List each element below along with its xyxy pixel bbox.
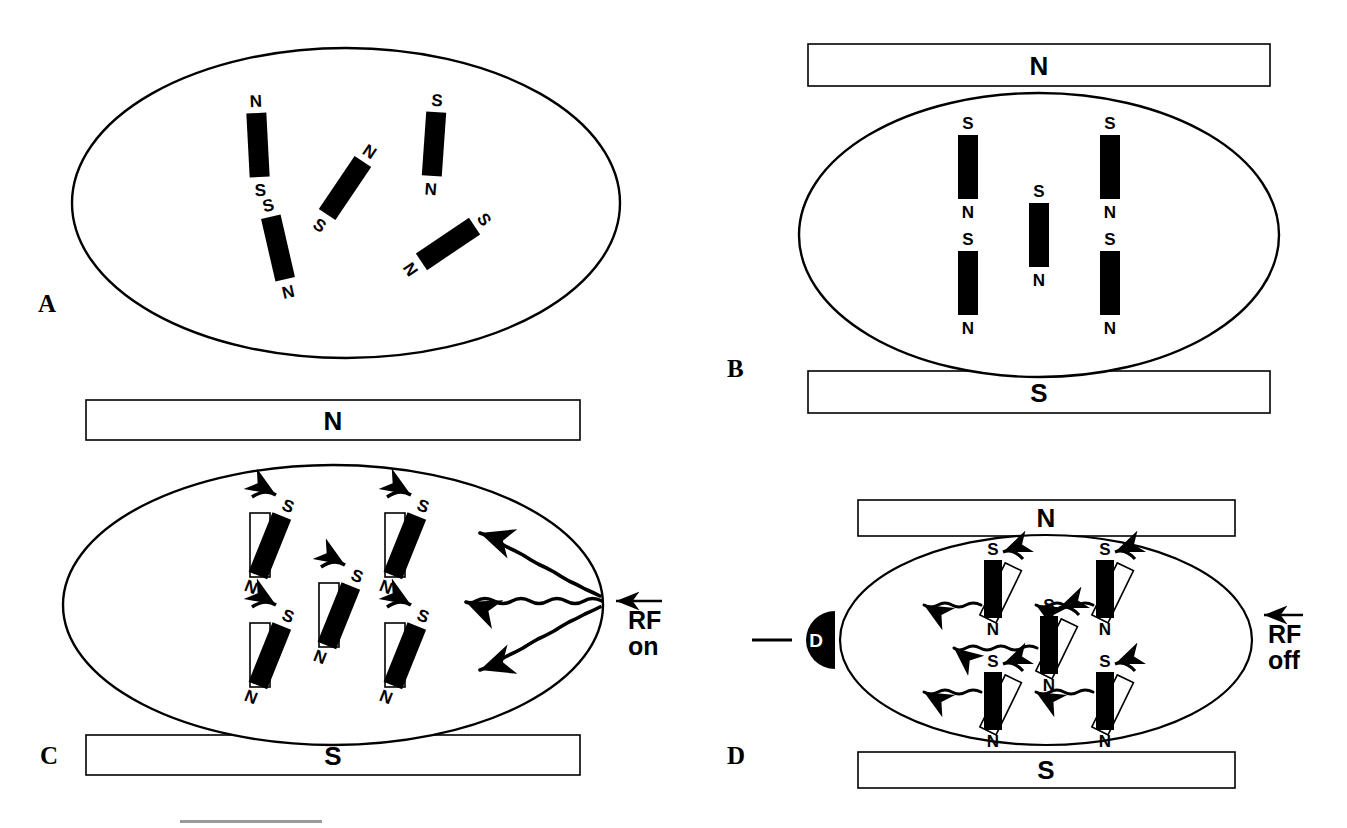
scale-bar: [180, 820, 322, 823]
magnet-body: [958, 251, 978, 315]
panel-d-group: N S D S N: [752, 500, 1303, 788]
rf-on-label: RF on: [628, 608, 661, 659]
figure-canvas: N S N S S N S N: [0, 0, 1347, 828]
detector-label: D: [809, 630, 823, 651]
panel-b-plate-north: N: [808, 44, 1270, 86]
magnet-body: [246, 113, 269, 178]
panel-label-b: B: [727, 356, 744, 381]
magnet-pole-top: S: [962, 230, 973, 249]
panel-b-group: N S S N S N S N: [799, 44, 1279, 413]
magnet-pole-top: S: [1104, 114, 1115, 133]
magnet-pole-top: N: [249, 92, 262, 112]
magnet-pole-top: S: [1099, 540, 1110, 559]
panel-d-detector[interactable]: D: [752, 611, 835, 669]
magnet-pole-top: S: [987, 652, 998, 671]
plate-label: N: [1030, 51, 1049, 81]
diagram-svg: N S N S S N S N: [0, 0, 1347, 828]
magnet-pole-bottom: N: [1104, 203, 1116, 222]
magnet-pole-bottom: N: [1099, 620, 1111, 639]
magnet-pole-bottom: N: [1104, 319, 1116, 338]
magnet-body: [1096, 672, 1114, 730]
panel-a-group: N S N S S N S N: [72, 48, 620, 358]
magnet-pole-top: S: [1104, 230, 1115, 249]
magnet-body: [1100, 135, 1120, 199]
magnet-pole-bottom: N: [424, 179, 438, 199]
magnet-body: [1096, 560, 1114, 618]
magnet-pole-top: S: [1033, 182, 1044, 201]
magnet-pole-bottom: N: [987, 732, 999, 751]
plate-label: N: [1037, 503, 1056, 533]
panel-label-d: D: [727, 743, 745, 768]
panel-label-c: C: [40, 743, 58, 768]
plate-label: S: [1030, 378, 1047, 408]
magnet-body: [1029, 203, 1049, 267]
panel-d-plate-north: N: [858, 500, 1235, 536]
panel-d-plate-south: S: [858, 752, 1235, 788]
magnet-pole-top: S: [1099, 652, 1110, 671]
magnet-body: [984, 560, 1002, 618]
magnet-body: [984, 672, 1002, 730]
rf-off-label: RF off: [1268, 622, 1301, 673]
panel-c-plate-north: N: [86, 400, 580, 440]
magnet-pole-bottom: N: [962, 319, 974, 338]
panel-label-a: A: [38, 291, 56, 316]
magnet-body: [1040, 616, 1058, 674]
plate-label: N: [324, 406, 343, 436]
plate-label: S: [1037, 755, 1054, 785]
magnet-pole-top: S: [431, 91, 444, 111]
magnet-pole-bottom: N: [1099, 732, 1111, 751]
magnet-pole-bottom: N: [987, 620, 999, 639]
magnet-pole-top: S: [987, 540, 998, 559]
magnet-pole-bottom: N: [962, 203, 974, 222]
magnet-body: [958, 135, 978, 199]
magnet-body: [1100, 251, 1120, 315]
panel-c-group: N S S N S: [63, 400, 662, 775]
magnet-pole-top: S: [962, 114, 973, 133]
magnet-pole-bottom: N: [1033, 271, 1045, 290]
